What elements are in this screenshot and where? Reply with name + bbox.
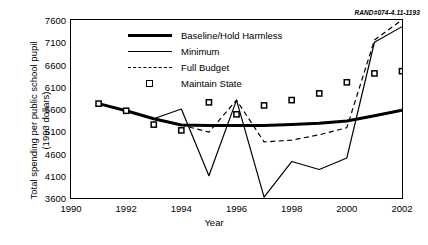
x-axis-title: Year xyxy=(0,217,428,228)
data-point-marker xyxy=(372,71,377,76)
chart-figure: RAND#074-4.11-1193 Total spending per pu… xyxy=(0,0,428,245)
data-point-marker xyxy=(317,91,322,96)
y-tick-label: 5600 xyxy=(24,104,66,115)
thick-line-icon xyxy=(128,29,172,41)
y-tick-label: 4600 xyxy=(24,148,66,159)
x-axis-labels: 1990199219941996199820002002 xyxy=(0,201,428,217)
x-tick-label: 1998 xyxy=(272,203,312,214)
legend-label: Baseline/Hold Harmless xyxy=(181,30,282,41)
data-point-marker xyxy=(124,108,129,113)
square-marker-swatch xyxy=(146,80,153,87)
rand-document-id: RAND#074-4.11-1193 xyxy=(354,9,420,16)
x-tick-label: 1990 xyxy=(51,203,91,214)
data-point-marker xyxy=(206,100,211,105)
thin-line-icon xyxy=(128,45,172,57)
data-point-marker xyxy=(261,103,266,108)
y-tick-label: 7100 xyxy=(24,37,66,48)
y-tick-label: 6100 xyxy=(24,81,66,92)
data-point-marker xyxy=(399,69,402,74)
data-point-marker xyxy=(151,122,156,127)
data-point-marker xyxy=(234,112,239,117)
y-tick-label: 6600 xyxy=(24,59,66,70)
legend-item: Baseline/Hold Harmless xyxy=(128,27,282,43)
data-point-marker xyxy=(179,128,184,133)
dashed-line-swatch xyxy=(128,67,172,68)
thin-line-swatch xyxy=(128,51,172,52)
legend-label: Maintain State xyxy=(181,78,242,89)
chart-legend: Baseline/Hold HarmlessMinimumFull Budget… xyxy=(128,27,282,91)
legend-label: Minimum xyxy=(181,46,220,57)
x-tick-label: 1996 xyxy=(217,203,257,214)
legend-label: Full Budget xyxy=(181,62,229,73)
y-tick-label: 7600 xyxy=(24,15,66,26)
x-tick-label: 2000 xyxy=(327,203,367,214)
thick-line-swatch xyxy=(128,34,172,37)
x-tick-label: 2002 xyxy=(382,203,422,214)
square-marker-icon xyxy=(128,77,172,89)
data-point-marker xyxy=(289,98,294,103)
dashed-line-icon xyxy=(128,61,172,73)
data-point-marker xyxy=(96,101,101,106)
x-tick-label: 1992 xyxy=(106,203,146,214)
x-tick-label: 1994 xyxy=(161,203,201,214)
legend-item: Maintain State xyxy=(128,75,282,91)
y-tick-label: 4100 xyxy=(24,170,66,181)
legend-item: Minimum xyxy=(128,43,282,59)
data-point-marker xyxy=(344,80,349,85)
legend-item: Full Budget xyxy=(128,59,282,75)
y-tick-label: 5100 xyxy=(24,126,66,137)
series-baseline-hold-harmless xyxy=(99,104,402,126)
